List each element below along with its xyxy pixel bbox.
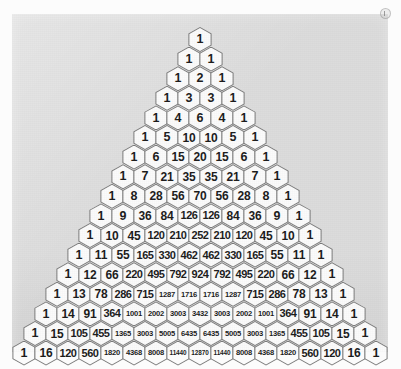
pascal-cell[interactable]: 1820 (276, 341, 299, 366)
pascal-cell-value: 1001 (258, 310, 274, 318)
pascal-cell-value: 924 (191, 269, 208, 280)
registration-mark-icon (380, 8, 391, 19)
pascal-cell[interactable]: 4368 (122, 341, 145, 366)
pascal-cell-value: 13 (73, 288, 86, 300)
pascal-cell-value: 13 (315, 288, 328, 300)
pascal-cell-value: 55 (117, 249, 130, 261)
pascal-cell[interactable]: 560 (78, 341, 101, 366)
pascal-cell-value: 1 (230, 92, 237, 105)
pascal-cell-value: 1 (296, 210, 303, 223)
pascal-cell-value: 15 (216, 151, 229, 163)
pascal-cell-value: 56 (172, 190, 185, 202)
pascal-cell-value: 6 (153, 151, 160, 164)
pascal-cell-value: 11440 (170, 350, 187, 356)
pascal-cell-value: 91 (84, 308, 97, 320)
pascal-cell-value: 1 (373, 347, 380, 360)
pascal-cell-value: 1 (98, 210, 105, 223)
pascal-cell-value: 20 (194, 151, 207, 163)
pascal-cell-value: 15 (172, 151, 185, 163)
pascal-cell[interactable]: 16 (342, 341, 365, 366)
pascal-cell-value: 495 (235, 269, 252, 280)
pascal-cell-value: 11440 (214, 350, 231, 356)
pascal-cell-value: 8 (263, 190, 270, 203)
pascal-cell[interactable]: 12870 (188, 341, 211, 366)
pascal-cell-value: 11 (293, 249, 305, 261)
pascal-cell-value: 1 (252, 131, 259, 144)
pascal-cell-value: 560 (301, 348, 318, 359)
pascal-cell-value: 15 (51, 328, 64, 340)
pascal-cell-value: 330 (224, 250, 241, 261)
pascal-cell-value: 6 (241, 151, 248, 164)
pascal-cell-value: 126 (202, 210, 219, 221)
pascal-cell-value: 1 (263, 151, 270, 164)
pascal-cell-value: 2002 (236, 310, 252, 318)
pascal-cell-value: 1287 (225, 291, 241, 299)
pascal-cell-value: 1 (43, 308, 50, 321)
pascal-cell-value: 84 (161, 210, 174, 222)
pascal-cell-value: 1716 (181, 291, 197, 299)
pascal-cell-value: 7 (142, 170, 149, 183)
pascal-cell[interactable]: 1 (364, 341, 387, 366)
pascal-cell[interactable]: 8008 (144, 341, 167, 366)
pascals-triangle-figure-panel: 1111211331146411510105116152015611721353… (12, 14, 388, 352)
pascal-cell-value: 3003 (170, 310, 186, 318)
pascal-cell[interactable]: 120 (56, 341, 79, 366)
pascal-cell-value: 14 (62, 308, 75, 320)
pascal-cell[interactable]: 8008 (232, 341, 255, 366)
pascal-cell-value: 210 (169, 230, 186, 241)
pascal-cell[interactable]: 1 (12, 341, 35, 366)
pascal-cell-value: 1 (362, 327, 369, 340)
pascal-cell-value: 1365 (269, 330, 285, 338)
pascal-cell[interactable]: 11440 (210, 341, 233, 366)
pascal-cell-value: 70 (194, 190, 207, 202)
pascal-cell-value: 35 (205, 171, 218, 183)
pascal-cell[interactable]: 4368 (254, 341, 277, 366)
pascal-cell-value: 45 (128, 230, 141, 242)
pascal-cell-value: 9 (274, 210, 281, 223)
pascal-cell-value: 5005 (225, 330, 241, 338)
pascal-cell-value: 7 (252, 170, 259, 183)
pascal-cell-value: 1 (208, 53, 215, 66)
pascal-cell-value: 9 (120, 210, 127, 223)
pascal-cell[interactable]: 11440 (166, 341, 189, 366)
pascal-cell-value: 1 (285, 190, 292, 203)
pascal-cell-value: 1 (197, 33, 204, 46)
pascal-cell-value: 28 (238, 190, 251, 202)
pascal-cell-value: 1820 (280, 349, 296, 357)
pascal-cell-value: 36 (139, 210, 152, 222)
pascal-cell-value: 126 (180, 210, 197, 221)
pascal-cell[interactable]: 16 (34, 341, 57, 366)
pascal-cell-value: 455 (92, 328, 109, 339)
pascal-cell-value: 1 (109, 190, 116, 203)
pascal-cell-value: 16 (40, 347, 53, 359)
pascal-cell-value: 4 (175, 112, 182, 125)
pascal-cell-value: 3432 (192, 310, 208, 318)
pascal-cell-value: 10 (282, 230, 295, 242)
pascal-cell[interactable]: 1820 (100, 341, 123, 366)
pascal-cell-value: 14 (326, 308, 339, 320)
pascal-cell-value: 792 (169, 269, 186, 280)
pascal-cell-value: 5 (230, 131, 237, 144)
pascal-cell-value: 2 (197, 72, 204, 85)
pascal-cell-value: 10 (205, 132, 218, 144)
pascal-cell-value: 1 (164, 92, 171, 105)
pascal-cell-value: 16 (348, 347, 361, 359)
pascal-cell-value: 1 (32, 327, 39, 340)
pascal-cell-value: 1 (219, 72, 226, 85)
pascal-cell-value: 286 (268, 289, 285, 300)
pascal-cell-value: 4 (219, 112, 226, 125)
pascal-cell[interactable]: 120 (320, 341, 343, 366)
pascal-cell-value: 330 (158, 250, 175, 261)
pascal-cell[interactable]: 560 (298, 341, 321, 366)
pascal-cell-value: 1 (21, 347, 28, 360)
pascal-cell-value: 105 (312, 328, 329, 339)
pascal-cell-value: 28 (150, 190, 163, 202)
pascal-cell-value: 6 (197, 112, 204, 125)
pascal-cell-value: 1 (186, 53, 193, 66)
pascal-cell-value: 120 (235, 230, 252, 241)
pascal-cell-value: 4368 (126, 349, 142, 357)
pascal-cell-value: 1716 (203, 291, 219, 299)
pascal-cell-value: 1 (120, 170, 127, 183)
pascal-cell-value: 220 (125, 269, 142, 280)
pascal-cell-value: 1 (175, 72, 182, 85)
